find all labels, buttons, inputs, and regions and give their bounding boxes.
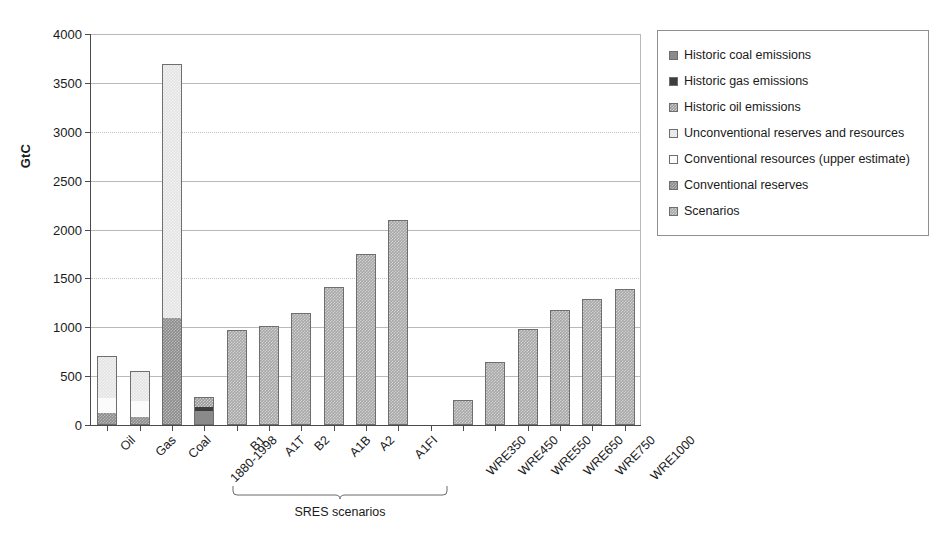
legend-item-historic-gas[interactable]: Historic gas emissions: [669, 68, 918, 94]
bar-slot: [123, 34, 155, 425]
bar-group: [91, 34, 641, 425]
x-tick-mark: [172, 425, 173, 431]
bar-slot: [253, 34, 285, 425]
bar-segment-scenarios: [454, 401, 472, 424]
x-tick-mark: [140, 425, 141, 431]
x-tick-mark: [495, 425, 496, 431]
x-tick-mark: [366, 425, 367, 431]
x-tick-mark: [269, 425, 270, 431]
legend-item-historic-coal[interactable]: Historic coal emissions: [669, 42, 918, 68]
bar[interactable]: [194, 397, 214, 425]
bar-segment-unconventional: [131, 372, 149, 400]
bar[interactable]: [518, 329, 538, 425]
bar[interactable]: [291, 313, 311, 425]
x-tick-label: B2: [312, 433, 333, 454]
x-tick-mark: [592, 425, 593, 431]
bar-slot: [512, 34, 544, 425]
x-tick-mark: [625, 425, 626, 431]
legend-label: Conventional reserves: [684, 179, 808, 192]
bar-slot: [156, 34, 188, 425]
legend-label: Unconventional reserves and resources: [684, 127, 904, 140]
y-tick-label: 500: [60, 369, 82, 384]
y-tick-mark: [85, 425, 91, 426]
bar-slot: [609, 34, 641, 425]
bar-segment-historic-coal: [195, 411, 213, 424]
bar-segment-unconventional: [163, 65, 181, 318]
y-tick-label: 2500: [53, 173, 82, 188]
bar-slot: [220, 34, 252, 425]
bar[interactable]: [550, 310, 570, 425]
legend-item-unconventional[interactable]: Unconventional reserves and resources: [669, 120, 918, 146]
bar-slot: [415, 34, 447, 425]
bar-slot: [544, 34, 576, 425]
legend-label: Conventional resources (upper estimate): [684, 153, 910, 166]
bar[interactable]: [324, 287, 344, 425]
y-axis-title: GtC: [18, 126, 33, 186]
x-tick-mark: [528, 425, 529, 431]
y-tick-label: 0: [75, 418, 82, 433]
y-tick-label: 1500: [53, 271, 82, 286]
bar-segment-scenarios: [228, 331, 246, 424]
bar-segment-scenarios: [357, 255, 375, 424]
x-tick-label: A2: [376, 433, 397, 454]
sres-bracket: [232, 486, 448, 499]
legend-label: Historic oil emissions: [684, 101, 801, 114]
bar-segment-conventional-reserves: [98, 413, 116, 424]
bar[interactable]: [453, 400, 473, 425]
bar[interactable]: [162, 64, 182, 425]
bar[interactable]: [356, 254, 376, 425]
bar-segment-scenarios: [583, 300, 601, 424]
x-tick-mark: [204, 425, 205, 431]
legend-swatch-icon: [669, 207, 678, 216]
x-tick-label: Gas: [152, 433, 178, 459]
bar-segment-scenarios: [519, 330, 537, 424]
legend-swatch-icon: [669, 51, 678, 60]
legend-swatch-icon: [669, 155, 678, 164]
bar[interactable]: [97, 356, 117, 425]
x-tick-mark: [431, 425, 432, 431]
bar-segment-conventional-reserves: [163, 318, 181, 424]
legend-swatch-icon: [669, 103, 678, 112]
bar-segment-scenarios: [260, 327, 278, 424]
bar[interactable]: [615, 289, 635, 425]
bar[interactable]: [388, 220, 408, 425]
x-tick-label: A1T: [282, 433, 308, 459]
bar-slot: [317, 34, 349, 425]
chart-legend: Historic coal emissionsHistoric gas emis…: [657, 30, 929, 236]
x-tick-mark: [334, 425, 335, 431]
legend-item-conventional-resources[interactable]: Conventional resources (upper estimate): [669, 146, 918, 172]
x-tick-mark: [560, 425, 561, 431]
chart-canvas: GtC 05001000150020002500300035004000 Oil…: [0, 0, 944, 543]
legend-item-historic-oil[interactable]: Historic oil emissions: [669, 94, 918, 120]
bar[interactable]: [227, 330, 247, 425]
y-tick-label: 2000: [53, 222, 82, 237]
bar-segment-scenarios: [551, 311, 569, 424]
bar-segment-conventional-resources: [131, 401, 149, 418]
bar-segment-unconventional: [98, 357, 116, 398]
bar-segment-scenarios: [486, 363, 504, 424]
bar[interactable]: [485, 362, 505, 425]
bar[interactable]: [259, 326, 279, 425]
legend-item-conventional-reserves[interactable]: Conventional reserves: [669, 172, 918, 198]
x-tick-label: A1B: [347, 433, 374, 460]
bar-segment-scenarios: [389, 221, 407, 424]
x-tick-mark: [463, 425, 464, 431]
legend-swatch-icon: [669, 77, 678, 86]
y-tick-label: 3000: [53, 124, 82, 139]
legend-item-scenarios[interactable]: Scenarios: [669, 198, 918, 224]
bar-slot: [382, 34, 414, 425]
legend-label: Historic gas emissions: [684, 75, 808, 88]
bar-slot: [479, 34, 511, 425]
bar-slot: [576, 34, 608, 425]
legend-label: Scenarios: [684, 205, 740, 218]
y-tick-label: 4000: [53, 27, 82, 42]
x-tick-mark: [398, 425, 399, 431]
bar[interactable]: [130, 371, 150, 425]
x-tick-mark: [107, 425, 108, 431]
bar[interactable]: [582, 299, 602, 425]
bar-slot: [447, 34, 479, 425]
bar-segment-scenarios: [616, 290, 634, 424]
legend-swatch-icon: [669, 129, 678, 138]
bar-segment-scenarios: [292, 314, 310, 424]
y-tick-label: 3500: [53, 75, 82, 90]
